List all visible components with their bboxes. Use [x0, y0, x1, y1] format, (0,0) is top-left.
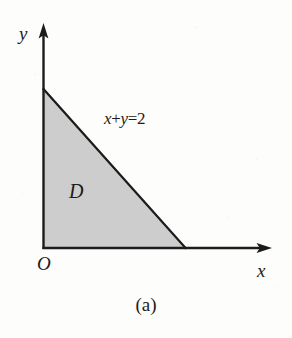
x-axis-label: x: [257, 261, 265, 280]
figure-caption: (a): [0, 295, 292, 314]
equation-variable-y: y: [121, 109, 128, 128]
origin-label: O: [37, 254, 51, 273]
figure-container: y x O D x+y=2 (a): [0, 0, 292, 338]
region-label-d: D: [69, 181, 83, 201]
y-axis-label: y: [19, 24, 27, 43]
coordinate-diagram: [0, 0, 292, 338]
equation-right-hand-side: =2: [128, 109, 146, 128]
boundary-equation-label: x+y=2: [104, 110, 145, 127]
equation-plus-sign: +: [111, 109, 120, 128]
